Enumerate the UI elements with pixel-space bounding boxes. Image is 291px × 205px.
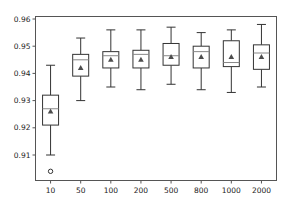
box-series bbox=[43, 24, 270, 173]
box-800 bbox=[193, 33, 209, 90]
y-tick-label: 0.96 bbox=[14, 15, 31, 24]
x-tick-label: 1000 bbox=[222, 186, 241, 195]
box-500 bbox=[163, 27, 179, 84]
x-tick-label: 500 bbox=[164, 186, 179, 195]
x-tick-label: 2000 bbox=[252, 186, 271, 195]
box-2000 bbox=[253, 24, 269, 87]
x-axis: 105010020050080010002000 bbox=[46, 181, 271, 195]
y-tick-label: 0.95 bbox=[14, 42, 31, 51]
box-plot-chart: 0.910.920.930.940.950.96 105010020050080… bbox=[0, 0, 291, 205]
box-100 bbox=[103, 30, 119, 87]
x-tick-label: 50 bbox=[76, 186, 86, 195]
box-50 bbox=[73, 38, 89, 101]
box-200 bbox=[133, 30, 149, 90]
box-10 bbox=[43, 65, 59, 173]
y-tick-label: 0.94 bbox=[14, 69, 31, 78]
y-tick-label: 0.91 bbox=[14, 151, 31, 160]
x-tick-label: 200 bbox=[134, 186, 149, 195]
y-tick-label: 0.93 bbox=[14, 96, 31, 105]
box-1000 bbox=[223, 30, 239, 93]
x-tick-label: 800 bbox=[194, 186, 209, 195]
axes-frame bbox=[36, 17, 277, 181]
x-tick-label: 10 bbox=[46, 186, 56, 195]
outlier-point bbox=[48, 169, 52, 173]
x-tick-label: 100 bbox=[104, 186, 119, 195]
y-tick-label: 0.92 bbox=[14, 123, 31, 132]
y-axis: 0.910.920.930.940.950.96 bbox=[14, 15, 36, 160]
